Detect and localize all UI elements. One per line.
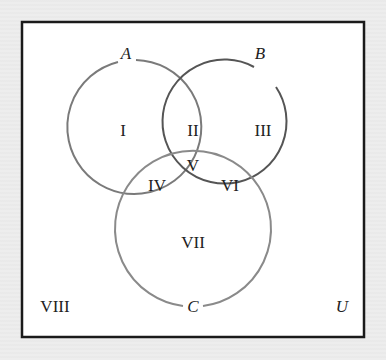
region-label-v: V	[187, 156, 200, 175]
set-label-c: C	[187, 297, 199, 316]
set-label-b: B	[255, 44, 266, 63]
set-label-a: A	[120, 44, 132, 63]
region-label-ii: II	[187, 121, 199, 140]
region-label-iii: III	[255, 121, 272, 140]
region-label-i: I	[120, 121, 126, 140]
region-label-vi: VI	[221, 176, 239, 195]
region-label-viii: VIII	[40, 297, 70, 316]
region-label-vii: VII	[181, 233, 205, 252]
universe-label: U	[336, 297, 350, 316]
venn-diagram: A B C U I II III IV V VI VII VIII	[0, 0, 386, 360]
region-label-iv: IV	[148, 176, 167, 195]
